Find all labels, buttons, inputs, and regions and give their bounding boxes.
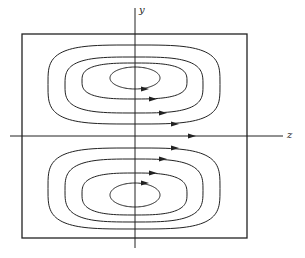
lower-streamline [48, 148, 220, 229]
figure-caption [0, 250, 305, 258]
flow-arrow-icon [149, 97, 157, 102]
axis-flow-arrow-icon [188, 134, 196, 139]
lower-streamline [65, 159, 203, 222]
flow-arrow-icon [159, 157, 167, 162]
z-axis-label: z [287, 130, 292, 140]
vortex-flow-diagram [0, 0, 305, 258]
upper-streamline [65, 57, 203, 113]
flow-arrow-icon [171, 122, 179, 127]
y-axis-label: y [139, 5, 145, 15]
flow-arrow-icon [171, 146, 179, 151]
flow-arrow-icon [159, 111, 167, 116]
streamlines [48, 45, 220, 229]
flow-arrow-icon [149, 171, 157, 176]
